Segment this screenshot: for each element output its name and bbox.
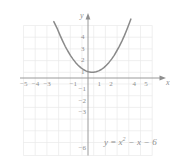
equation-term2: − x <box>126 137 141 147</box>
parabola-curve <box>54 19 131 72</box>
x-tick-label-neg1: −1 <box>70 81 77 88</box>
y-tick-label-3: 3 <box>81 46 85 53</box>
y-tick-label-neg2: −2 <box>79 98 86 105</box>
graph-figure: y x −5 −4 −3 −1 1 2 4 5 4 3 2 1 −1 −2 −3… <box>0 0 176 161</box>
x-tick-label-1: 1 <box>98 81 102 88</box>
y-tick-label-neg3: −3 <box>79 109 86 116</box>
y-axis-arrow <box>86 13 91 20</box>
equation-equals: = <box>108 137 118 147</box>
x-tick-label-neg5: −5 <box>20 81 27 88</box>
x-axis-label: x <box>166 79 170 87</box>
x-tick-label-5: 5 <box>144 81 148 88</box>
x-tick-label-4: 4 <box>133 81 137 88</box>
equation-annotation: y = x2 − x − 6 <box>104 136 157 147</box>
x-tick-label-2: 2 <box>109 81 113 88</box>
equation-term3: − 6 <box>141 137 157 147</box>
x-tick-label-neg4: −4 <box>32 81 39 88</box>
y-tick-label-neg1: −1 <box>79 86 86 93</box>
y-tick-label-1: 1 <box>81 69 85 76</box>
y-tick-label-4: 4 <box>81 34 85 41</box>
x-tick-label-neg3: −3 <box>43 81 50 88</box>
y-axis-label: y <box>80 12 84 20</box>
y-tick-label-2: 2 <box>81 57 85 64</box>
y-tick-label-neg6: −6 <box>79 145 86 152</box>
